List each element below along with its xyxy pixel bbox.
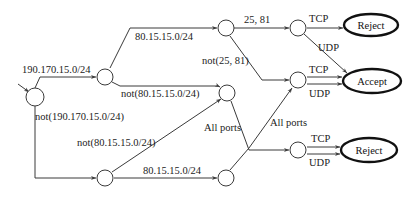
node-dst-match-bottom [218,170,234,186]
label-tcp-3: TCP [311,133,330,144]
edge-dst-not-top [112,82,220,87]
node-ports-match [290,20,306,36]
label-src-not: not(190.170.15.0/24) [35,111,124,123]
edge-src-match [35,77,96,88]
decision-tree-diagram: Reject Accept Reject 190.170.15.0/24 not… [0,0,406,197]
entry-arrow [18,84,29,92]
label-ports-not: not(25, 81) [202,55,249,67]
label-tcp-2: TCP [309,64,328,75]
node-accept-proto [290,72,306,88]
root-node [26,88,44,106]
label-dst-match-top: 80.15.15.0/24 [135,31,194,42]
label-udp-2: UDP [309,88,330,99]
terminal-reject-top-label: Reject [358,20,385,31]
edge-dst-not-bottom [112,99,221,172]
terminal-accept-label: Accept [357,76,387,87]
label-tcp-1: TCP [309,13,328,24]
label-udp-1: UDP [318,42,339,53]
node-reject-proto [290,142,306,158]
label-dst-match-bottom: 80.15.15.0/24 [143,165,202,176]
node-dst-match-top [218,20,234,36]
label-src-match: 190.170.15.0/24 [22,64,91,75]
node-dst-not [219,85,235,101]
label-all-ports-right: All ports [270,117,307,128]
node-src-match [97,69,113,85]
node-src-not [97,170,113,186]
label-dst-not-bottom: not(80.15.15.0/24) [77,137,156,149]
label-all-ports-left: All ports [204,122,241,133]
label-ports-match: 25, 81 [244,14,270,25]
label-udp-3: UDP [309,157,330,168]
label-dst-not-top: not(80.15.15.0/24) [121,88,200,100]
terminal-reject-bottom-label: Reject [356,145,383,156]
